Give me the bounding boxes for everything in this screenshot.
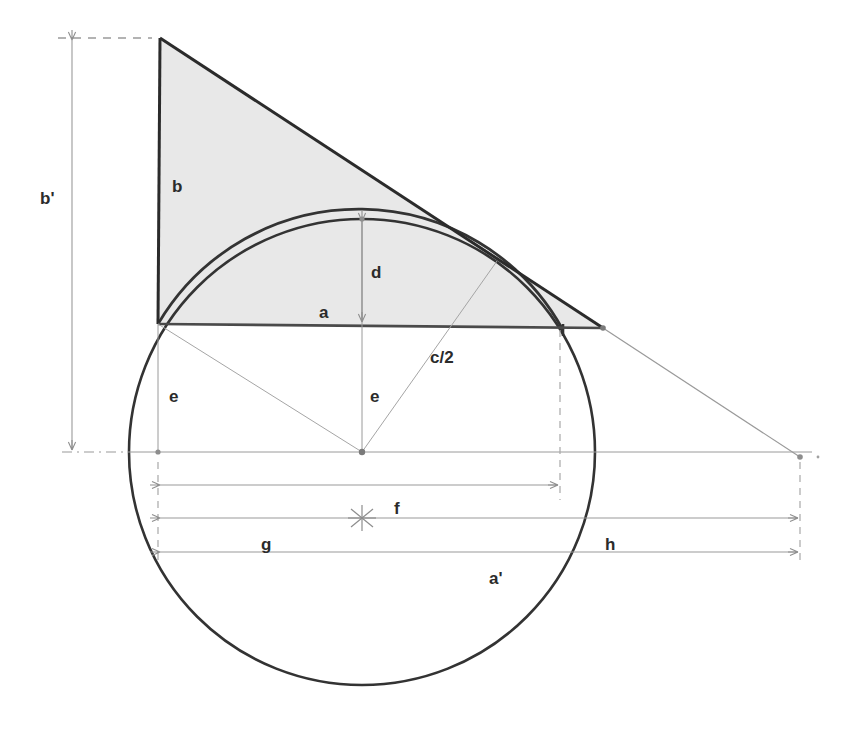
label-b: b [172, 177, 182, 196]
node-arc-top [359, 216, 364, 221]
label-g: g [261, 535, 271, 554]
label-e-left: e [169, 387, 178, 406]
node-far-right [797, 454, 803, 460]
node-circle-center [359, 449, 365, 455]
triangle-leg-vertical [158, 38, 160, 324]
label-e-center: e [370, 387, 379, 406]
label-h: h [605, 535, 615, 554]
label-a-prime: a' [489, 569, 503, 588]
canvas-background [0, 0, 863, 745]
label-a: a [319, 303, 329, 322]
node-left-axis [155, 449, 160, 454]
diagram-canvas: b' b d a c/2 e e f g h a' [0, 0, 863, 745]
label-b-prime: b' [40, 189, 54, 208]
label-c-half: c/2 [430, 348, 454, 367]
label-f: f [394, 499, 400, 518]
stray-dot [817, 456, 820, 459]
label-d: d [371, 263, 381, 282]
geometry-diagram: b' b d a c/2 e e f g h a' [0, 0, 863, 745]
node-triangle-right [600, 325, 606, 331]
